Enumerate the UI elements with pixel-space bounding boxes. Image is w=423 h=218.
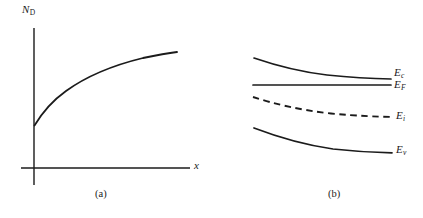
label-valence-band-edge: Ev <box>396 144 406 155</box>
panel-b: Ec EF Ei Ev (b) <box>215 0 423 218</box>
figure-root: ND x (a) Ec EF Ei Ev (b <box>0 0 423 218</box>
curve-conduction-band-edge <box>254 58 391 79</box>
panel-a: ND x (a) <box>0 0 215 218</box>
y-axis-label-subscript: D <box>30 8 35 17</box>
curve-intrinsic-level <box>253 97 392 117</box>
label-ei-symbol: E <box>396 109 403 121</box>
label-ec-symbol: E <box>394 66 401 78</box>
label-intrinsic-level: Ei <box>396 110 405 121</box>
panel-b-plot <box>215 0 423 218</box>
label-ev-symbol: E <box>396 143 403 155</box>
y-axis-label: ND <box>22 4 35 15</box>
label-ei-subscript: i <box>403 114 405 123</box>
label-ev-subscript: v <box>403 148 406 157</box>
curve-donor-concentration <box>35 52 178 126</box>
panel-b-caption: (b) <box>328 189 340 200</box>
x-axis-label-symbol: x <box>194 159 199 171</box>
label-conduction-band-edge: Ec <box>394 67 404 78</box>
panel-a-plot <box>0 0 215 218</box>
label-ef-symbol: E <box>394 78 401 90</box>
x-axis-label: x <box>194 160 199 171</box>
curve-valence-band-edge <box>254 128 392 153</box>
y-axis-label-symbol: N <box>22 3 29 15</box>
panel-a-caption: (a) <box>95 189 107 200</box>
label-fermi-level: EF <box>394 79 405 90</box>
label-ef-subscript: F <box>401 83 406 92</box>
